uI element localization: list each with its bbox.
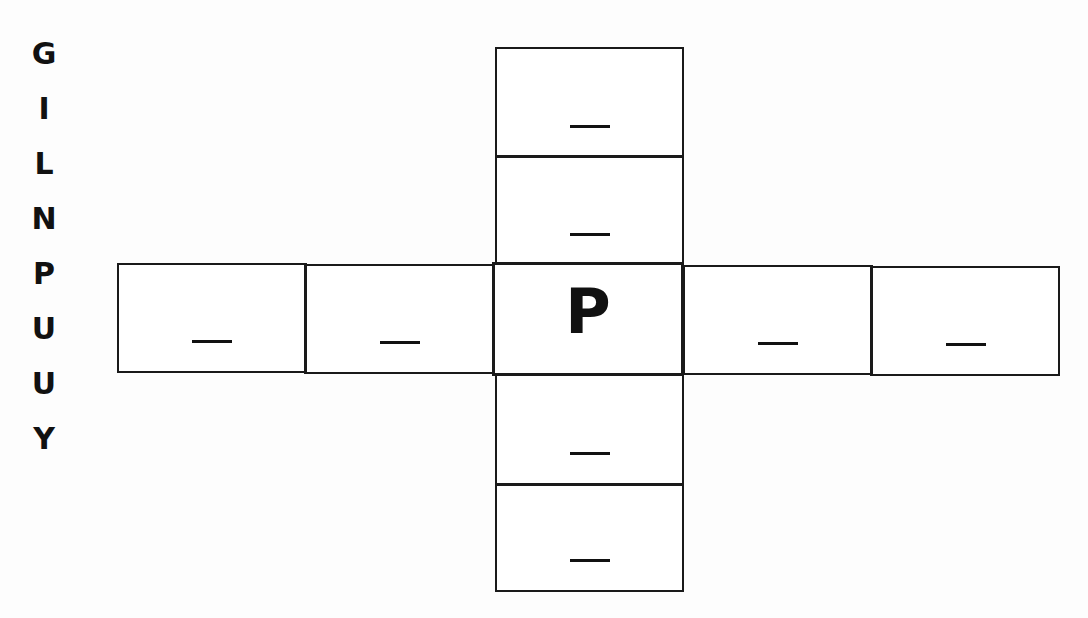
blank-slot: [946, 343, 986, 346]
blank-slot: [380, 341, 420, 344]
letter-tile[interactable]: I: [22, 81, 66, 136]
vertical-cell-5[interactable]: [495, 483, 684, 592]
vertical-cell-2[interactable]: [495, 155, 684, 266]
blank-slot: [570, 233, 610, 236]
vertical-cell-4[interactable]: [495, 373, 684, 485]
letter-tile[interactable]: U: [22, 301, 66, 356]
center-cell: P: [492, 262, 684, 376]
horizontal-cell-4[interactable]: [682, 265, 873, 375]
blank-slot: [192, 340, 232, 343]
letter-tile[interactable]: P: [22, 246, 66, 301]
letter-tile[interactable]: G: [22, 26, 66, 81]
blank-slot: [758, 342, 798, 345]
blank-slot: [570, 452, 610, 455]
vertical-cell-1[interactable]: [495, 47, 684, 158]
letter-tile[interactable]: L: [22, 136, 66, 191]
horizontal-cell-5[interactable]: [870, 266, 1060, 376]
blank-slot: [570, 125, 610, 128]
letter-tile[interactable]: Y: [22, 411, 66, 466]
blank-slot: [570, 559, 610, 562]
horizontal-cell-1[interactable]: [117, 263, 307, 373]
letter-tile[interactable]: U: [22, 356, 66, 411]
letter-tile[interactable]: N: [22, 191, 66, 246]
center-letter: P: [495, 277, 681, 347]
horizontal-cell-2[interactable]: [304, 264, 495, 374]
letter-bank: G I L N P U U Y: [22, 26, 66, 466]
